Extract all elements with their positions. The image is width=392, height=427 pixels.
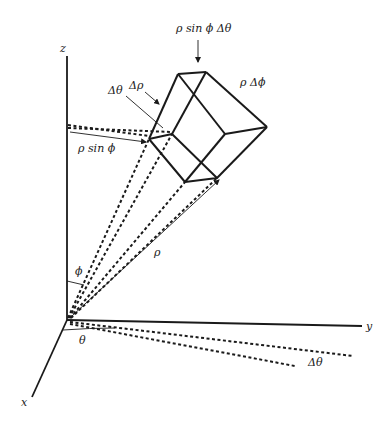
z-axis-label: z — [59, 42, 66, 55]
theta-angle-mark — [63, 328, 115, 330]
y-axis — [67, 320, 362, 326]
x-axis — [32, 320, 67, 397]
rho-sin-phi-label: ρ sin ϕ — [77, 142, 116, 155]
delta-theta-top-label: Δθ — [107, 84, 123, 97]
dashed-ray-3 — [70, 182, 185, 318]
phi-label: ϕ — [75, 265, 83, 278]
delta-theta-bottom-label: Δθ — [307, 356, 323, 369]
delta-rho-label: Δρ — [128, 79, 144, 92]
dashed-ray-2 — [69, 134, 172, 318]
y-axis-label: y — [365, 320, 373, 333]
dashed-ray-1 — [68, 139, 149, 318]
rho-arrow — [72, 180, 219, 316]
rho-label: ρ — [153, 246, 161, 259]
rho-sin-phi-dtheta-label: ρ sin ϕ Δθ — [175, 22, 232, 35]
phi-angle-mark — [67, 281, 84, 285]
theta-label: θ — [79, 334, 86, 347]
x-axis-label: x — [21, 396, 28, 409]
rho-dphi-label: ρ Δϕ — [239, 76, 266, 89]
spherical-volume-element-diagram: z y x ρ sin ϕ Δθ ρ Δϕ Δρ Δθ ρ sin ϕ ρ ϕ … — [0, 0, 392, 427]
delta-theta-leader — [126, 96, 163, 128]
radial-dashed-lines — [68, 125, 353, 366]
delta-rho-arrow — [145, 92, 159, 104]
box-edge-top — [178, 72, 206, 74]
